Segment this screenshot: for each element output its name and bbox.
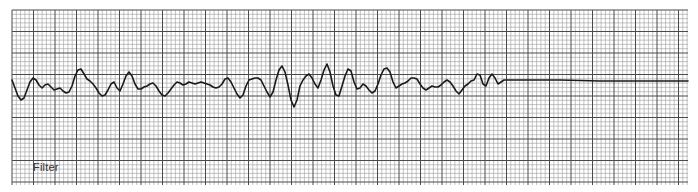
ecg-rhythm-strip xyxy=(0,0,698,192)
filter-label: Filter xyxy=(33,161,59,173)
